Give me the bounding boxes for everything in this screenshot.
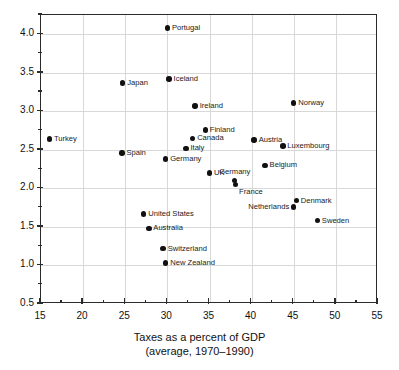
data-point-label: Finland bbox=[210, 126, 235, 134]
y-tick-label: 3.0 bbox=[4, 105, 34, 115]
y-tick-label: 4.0 bbox=[4, 28, 34, 38]
x-tick-label: 15 bbox=[34, 311, 45, 321]
x-tick-major bbox=[81, 298, 82, 304]
y-tick-major bbox=[37, 302, 43, 303]
data-point-label: Austria bbox=[259, 136, 283, 144]
y-tick-label: 1.5 bbox=[4, 221, 34, 231]
data-point-label: Portugal bbox=[172, 24, 200, 32]
y-tick-minor bbox=[38, 129, 42, 130]
data-point bbox=[47, 136, 52, 141]
data-point bbox=[166, 76, 171, 81]
data-point-label: France bbox=[239, 188, 263, 196]
x-tick-label: 20 bbox=[77, 311, 88, 321]
x-tick-major bbox=[208, 298, 209, 304]
data-point-label: Japan bbox=[127, 79, 148, 87]
x-tick-minor bbox=[103, 300, 104, 304]
x-tick-minor bbox=[355, 300, 356, 304]
data-point-label: Switzerland bbox=[168, 245, 207, 253]
x-tick-major bbox=[292, 298, 293, 304]
data-point bbox=[291, 204, 296, 209]
x-tick-label: 30 bbox=[161, 311, 172, 321]
data-point bbox=[165, 25, 170, 30]
data-point bbox=[294, 198, 299, 203]
x-axis-title-line2: (average, 1970–1990) bbox=[0, 344, 399, 358]
data-point bbox=[203, 127, 208, 132]
data-point-label: Italy bbox=[190, 145, 204, 153]
data-point bbox=[291, 100, 296, 105]
y-tick-minor bbox=[38, 13, 42, 14]
x-tick-major bbox=[250, 298, 251, 304]
y-tick-label: 1.0 bbox=[4, 259, 34, 269]
y-tick-major bbox=[37, 71, 43, 72]
y-tick-major bbox=[37, 187, 43, 188]
y-tick-major bbox=[37, 264, 43, 265]
scatter-chart-figure: TurkeyPortugalJapanIcelandIrelandNorwayF… bbox=[0, 0, 399, 370]
gridline-vertical bbox=[294, 15, 295, 302]
x-tick-minor bbox=[271, 300, 272, 304]
data-point-label: Germany bbox=[219, 168, 250, 176]
data-point bbox=[262, 163, 267, 168]
x-tick-major bbox=[124, 298, 125, 304]
data-point bbox=[190, 136, 195, 141]
x-tick-minor bbox=[145, 300, 146, 304]
x-tick-minor bbox=[313, 300, 314, 304]
gridline-horizontal bbox=[41, 34, 376, 35]
data-point bbox=[183, 146, 188, 151]
y-tick-minor bbox=[38, 52, 42, 53]
data-point bbox=[207, 170, 212, 175]
x-tick-major bbox=[334, 298, 335, 304]
data-point bbox=[280, 143, 285, 148]
x-axis-title: Taxes as a percent of GDP (average, 1970… bbox=[0, 330, 399, 358]
data-point-label: Iceland bbox=[174, 75, 199, 83]
gridline-horizontal bbox=[41, 227, 376, 228]
gridline-vertical bbox=[83, 15, 84, 302]
plot-area: TurkeyPortugalJapanIcelandIrelandNorwayF… bbox=[40, 14, 377, 303]
data-point-label: New Zealand bbox=[170, 259, 215, 267]
gridline-vertical bbox=[336, 15, 337, 302]
y-tick-minor bbox=[38, 245, 42, 246]
y-tick-major bbox=[37, 225, 43, 226]
data-point bbox=[120, 80, 125, 85]
data-point-label: Sweden bbox=[322, 217, 349, 225]
y-tick-minor bbox=[38, 206, 42, 207]
gridline-horizontal bbox=[41, 111, 376, 112]
data-point-label: United States bbox=[148, 210, 194, 218]
y-tick-label: 2.5 bbox=[4, 144, 34, 154]
x-tick-major bbox=[166, 298, 167, 304]
x-tick-minor bbox=[229, 300, 230, 304]
data-point-label: Australia bbox=[153, 225, 183, 233]
x-axis-title-line1: Taxes as a percent of GDP bbox=[0, 330, 399, 344]
x-tick-label: 45 bbox=[287, 311, 298, 321]
data-point bbox=[251, 137, 256, 142]
data-point bbox=[141, 211, 146, 216]
data-point bbox=[192, 103, 197, 108]
data-point-label: Turkey bbox=[54, 135, 77, 143]
data-point-label: Denmark bbox=[301, 197, 332, 205]
gridline-horizontal bbox=[41, 188, 376, 189]
data-point bbox=[146, 226, 151, 231]
y-tick-minor bbox=[38, 168, 42, 169]
data-point bbox=[119, 150, 124, 155]
x-tick-label: 50 bbox=[329, 311, 340, 321]
data-point bbox=[233, 182, 238, 187]
data-point-label: Belgium bbox=[270, 161, 297, 169]
x-tick-label: 55 bbox=[371, 311, 382, 321]
data-point bbox=[315, 218, 320, 223]
data-point-label: Germany bbox=[170, 155, 201, 163]
y-tick-major bbox=[37, 110, 43, 111]
x-tick-minor bbox=[187, 300, 188, 304]
x-tick-label: 25 bbox=[119, 311, 130, 321]
data-point-label: Canada bbox=[197, 135, 224, 143]
x-tick-minor bbox=[60, 300, 61, 304]
y-tick-label: 0.5 bbox=[4, 298, 34, 308]
y-tick-major bbox=[37, 148, 43, 149]
data-point-label: Netherlands bbox=[248, 203, 289, 211]
data-point-label: Luxembourg bbox=[287, 142, 329, 150]
x-tick-label: 40 bbox=[245, 311, 256, 321]
y-tick-label: 2.0 bbox=[4, 182, 34, 192]
y-tick-major bbox=[37, 33, 43, 34]
y-tick-minor bbox=[38, 283, 42, 284]
data-point bbox=[160, 246, 165, 251]
data-point-label: Ireland bbox=[200, 102, 223, 110]
data-point-label: Norway bbox=[298, 99, 324, 107]
